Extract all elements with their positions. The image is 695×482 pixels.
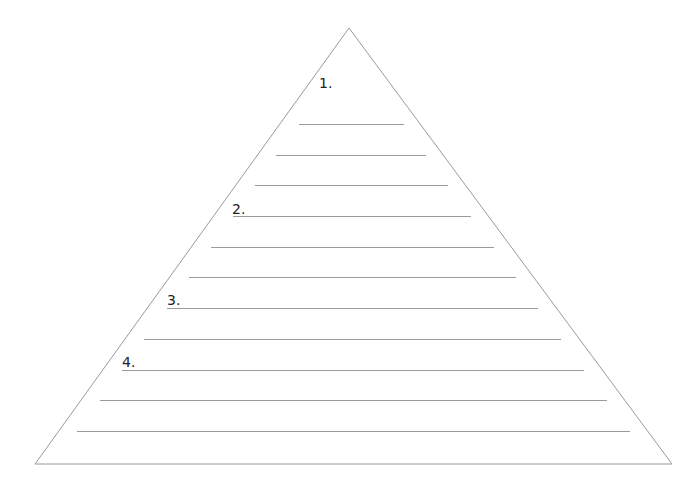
section-label-3: 3. [167, 293, 180, 307]
section-label-2: 2. [232, 202, 245, 216]
section-label-1: 1. [319, 76, 332, 90]
pyramid-diagram [0, 0, 695, 482]
write-lines [77, 125, 630, 432]
pyramid-outline [35, 28, 672, 464]
section-label-4: 4. [122, 355, 135, 369]
